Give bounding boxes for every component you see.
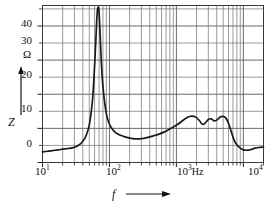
x-axis-unit-label: Hz <box>192 166 204 177</box>
x-tick-exponent-1: 1 <box>46 163 50 172</box>
x-tick-label-10e3: 103Hz <box>177 166 203 177</box>
grid-minor-horizontal <box>43 9 264 146</box>
y-tick-label-10: 10 <box>10 103 32 114</box>
x-tick-label-10e2: 102 <box>106 166 121 177</box>
x-tick-label-10e4: 104 <box>248 166 263 177</box>
x-axis-variable-label: f <box>112 188 115 200</box>
grid-major-horizontal <box>43 26 264 163</box>
y-axis-variable-label: Z <box>8 116 15 128</box>
x-tick-mantissa-2: 10 <box>106 165 117 177</box>
y-tick-label-30: 30 <box>10 35 32 46</box>
y-tick-label-20: 20 <box>10 69 32 80</box>
y-axis-ticks <box>38 9 43 163</box>
y-tick-label-0: 0 <box>10 138 32 149</box>
x-tick-mantissa-1: 10 <box>35 165 46 177</box>
y-axis-unit-label: Ω <box>23 49 31 60</box>
plot-frame <box>43 6 264 163</box>
impedance-frequency-chart: 0 10 20 30 40 Ω Z 101 102 103Hz 104 f <box>0 0 278 208</box>
x-tick-label-10e1: 101 <box>35 166 50 177</box>
y-tick-label-40: 40 <box>10 18 32 29</box>
x-tick-exponent-4: 4 <box>259 163 263 172</box>
x-tick-exponent-2: 2 <box>117 163 121 172</box>
impedance-curve <box>43 7 264 152</box>
x-axis-arrow-icon <box>126 191 171 197</box>
x-axis-ticks <box>43 163 264 168</box>
x-tick-mantissa-3: 10 <box>177 165 188 177</box>
x-tick-mantissa-4: 10 <box>248 165 259 177</box>
